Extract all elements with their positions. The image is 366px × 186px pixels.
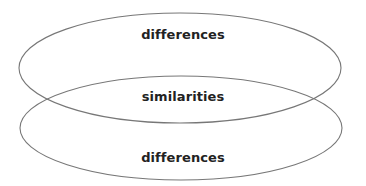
top-differences-label: differences [0, 27, 366, 43]
similarities-label: similarities [0, 89, 366, 105]
bottom-differences-label: differences [0, 150, 366, 166]
venn-diagram: differences similarities differences [0, 0, 366, 186]
